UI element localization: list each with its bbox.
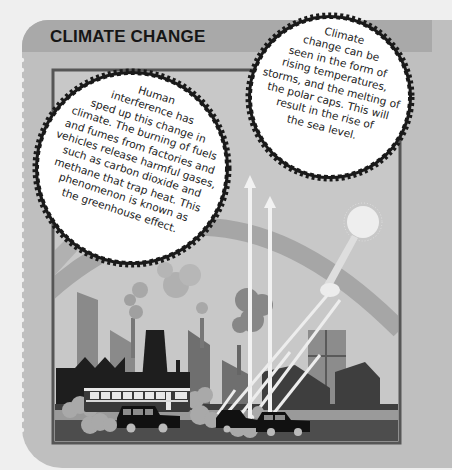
- scalloped-edge: [20, 58, 24, 432]
- smoke: [132, 282, 148, 298]
- smoke: [232, 317, 248, 333]
- smoke: [129, 305, 143, 319]
- chimney: [237, 345, 241, 375]
- smoke: [179, 264, 201, 286]
- sun: [347, 206, 379, 238]
- chimney: [200, 318, 204, 348]
- smoke: [124, 294, 136, 306]
- chimney: [131, 318, 135, 358]
- smoke: [157, 262, 173, 278]
- smoke: [196, 302, 208, 314]
